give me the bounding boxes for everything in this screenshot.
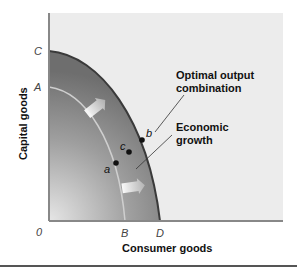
point-b-label: b [146, 127, 152, 139]
growth-label-line2: growth [176, 134, 213, 146]
point-a-label: a [104, 163, 110, 175]
tick-a: A [33, 81, 41, 93]
optimal-label-line1: Optimal output [176, 69, 255, 81]
growth-label-line1: Economic [176, 121, 229, 133]
tick-c: C [34, 45, 42, 57]
point-b [139, 137, 145, 143]
point-c-label: c [120, 140, 126, 152]
point-c [126, 149, 132, 155]
origin-label: 0 [36, 226, 43, 238]
tick-b: B [121, 227, 128, 239]
point-a [113, 160, 119, 166]
optimal-label-line2: combination [176, 82, 242, 94]
y-axis-title: Capital goods [17, 87, 29, 160]
x-axis-title: Consumer goods [122, 242, 212, 254]
ppf-diagram: b c a Optimal output combination Economi… [0, 0, 297, 269]
tick-d: D [156, 227, 164, 239]
